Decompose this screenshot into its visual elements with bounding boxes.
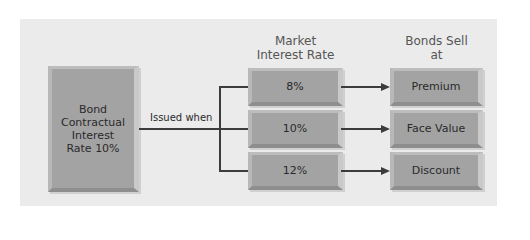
source-line: Contractual xyxy=(61,116,125,129)
issued-when-label: Issued when xyxy=(150,112,212,123)
market-rate-box: 8% xyxy=(248,68,343,106)
connector-line xyxy=(139,128,221,130)
bracket-branch xyxy=(219,128,249,130)
source-line: Interest xyxy=(61,129,125,142)
bracket-branch xyxy=(219,86,249,88)
market-rate-box: 10% xyxy=(248,110,343,148)
sells-at-value: Discount xyxy=(412,164,460,177)
header-line: at xyxy=(390,48,483,62)
source-line: Rate 10% xyxy=(61,142,125,155)
market-rate-header: Market Interest Rate xyxy=(248,34,343,62)
bracket-branch xyxy=(219,170,249,172)
arrow-head-icon xyxy=(381,167,390,175)
bonds-sell-header: Bonds Sell at xyxy=(390,34,483,62)
arrow-head-icon xyxy=(381,83,390,91)
sells-at-box: Premium xyxy=(390,68,483,106)
header-line: Market xyxy=(248,34,343,48)
arrow-line xyxy=(341,128,383,130)
arrow-line xyxy=(341,170,383,172)
market-rate-box: 12% xyxy=(248,152,343,190)
sells-at-box: Face Value xyxy=(390,110,483,148)
bond-contractual-rate-box: Bond Contractual Interest Rate 10% xyxy=(48,66,139,192)
source-line: Bond xyxy=(61,103,125,116)
sells-at-box: Discount xyxy=(390,152,483,190)
sells-at-value: Face Value xyxy=(407,122,466,135)
market-rate-value: 8% xyxy=(286,80,303,93)
header-line: Interest Rate xyxy=(248,48,343,62)
arrow-line xyxy=(341,86,383,88)
market-rate-value: 12% xyxy=(283,164,307,177)
sells-at-value: Premium xyxy=(412,80,461,93)
market-rate-value: 10% xyxy=(283,122,307,135)
header-line: Bonds Sell xyxy=(390,34,483,48)
arrow-head-icon xyxy=(381,125,390,133)
